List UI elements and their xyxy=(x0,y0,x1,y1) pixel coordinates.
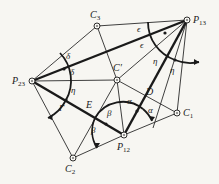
svg-text:β: β xyxy=(106,108,112,118)
svg-text:η: η xyxy=(153,56,158,66)
svg-text:β: β xyxy=(90,125,96,135)
svg-text:η: η xyxy=(170,65,175,75)
pole-triangle-diagram: C3 P13 P23 C′ C1 P12 C2 D E δ δ η Γ ϵ ϵ … xyxy=(0,0,219,184)
label-C2: C2 xyxy=(65,163,76,176)
svg-text:δ: δ xyxy=(70,67,75,77)
label-P12: P12 xyxy=(116,141,131,154)
label-P23: P23 xyxy=(11,75,26,88)
svg-text:ϵ: ϵ xyxy=(140,40,144,50)
point-labels: C3 P13 P23 C′ C1 P12 C2 xyxy=(11,9,207,176)
svg-text:ϵ: ϵ xyxy=(137,24,141,34)
label-C3: C3 xyxy=(90,9,101,22)
label-C-prime: C′ xyxy=(113,62,123,73)
label-C1: C1 xyxy=(183,107,194,120)
label-P13: P13 xyxy=(192,14,207,27)
label-D: D xyxy=(145,86,154,97)
svg-text:α: α xyxy=(127,96,132,106)
svg-text:α: α xyxy=(148,105,153,115)
svg-text:δ: δ xyxy=(66,51,71,61)
label-E: E xyxy=(85,99,92,110)
svg-text:Γ: Γ xyxy=(58,103,65,113)
thin-lines xyxy=(32,20,187,158)
svg-text:η: η xyxy=(71,85,76,95)
